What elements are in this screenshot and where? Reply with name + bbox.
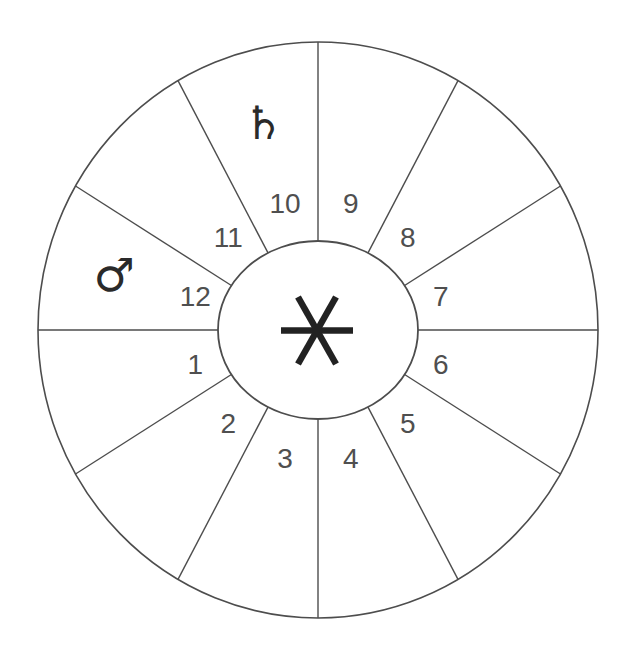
house-number-9: 9: [343, 188, 359, 219]
house-divider-line: [405, 375, 561, 475]
house-divider-line: [405, 186, 561, 286]
house-number-2: 2: [220, 408, 236, 439]
house-number-12: 12: [180, 281, 211, 312]
house-divider-line: [76, 375, 232, 475]
house-wheel-svg: 123456789101112♄♂: [0, 0, 628, 657]
house-number-7: 7: [433, 281, 449, 312]
house-number-6: 6: [433, 349, 449, 380]
planet-mars-glyph: ♂: [94, 248, 135, 302]
house-number-1: 1: [188, 349, 204, 380]
planet-saturn-glyph: ♄: [243, 96, 284, 150]
house-number-5: 5: [400, 408, 416, 439]
house-number-11: 11: [214, 222, 243, 253]
house-number-10: 10: [270, 188, 301, 219]
astrology-wheel-figure: 123456789101112♄♂: [0, 0, 628, 657]
house-number-8: 8: [400, 222, 416, 253]
house-number-3: 3: [277, 443, 293, 474]
house-number-4: 4: [343, 443, 359, 474]
